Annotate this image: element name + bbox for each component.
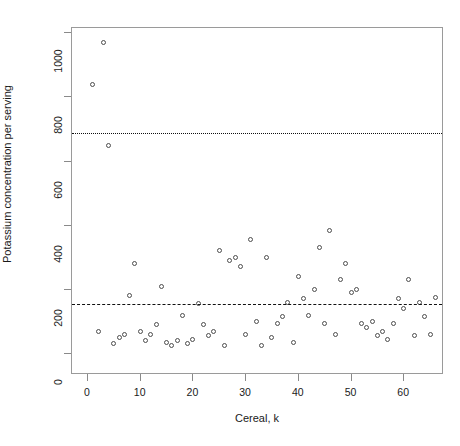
data-point <box>138 329 143 334</box>
data-point <box>175 338 180 343</box>
data-point <box>143 338 148 343</box>
data-point <box>206 333 211 338</box>
data-point <box>412 333 417 338</box>
data-point <box>343 261 348 266</box>
x-axis-title: Cereal, k <box>71 412 443 424</box>
data-point <box>428 332 433 337</box>
data-point <box>396 296 401 301</box>
data-point <box>275 321 280 326</box>
x-axis-tick-label: 50 <box>331 386 371 398</box>
data-point <box>291 340 296 345</box>
data-point <box>164 340 169 345</box>
data-point <box>159 284 164 289</box>
data-point <box>280 314 285 319</box>
data-point <box>364 325 369 330</box>
data-point <box>349 290 354 295</box>
y-axis-tick-label: 1000 <box>50 32 66 90</box>
x-axis-tick <box>351 374 352 381</box>
data-point <box>127 293 132 298</box>
data-point <box>122 332 127 337</box>
x-axis-tick-label: 10 <box>120 386 160 398</box>
data-point <box>233 255 238 260</box>
data-point <box>296 274 301 279</box>
data-point <box>101 40 106 45</box>
data-point <box>406 277 411 282</box>
data-point <box>254 319 259 324</box>
data-point <box>312 287 317 292</box>
data-point <box>354 287 359 292</box>
data-point <box>201 322 206 327</box>
data-point <box>169 343 174 348</box>
data-point <box>375 333 380 338</box>
data-point <box>180 313 185 318</box>
y-axis-tick-label: 0 <box>50 353 66 411</box>
y-axis-tick-label: 800 <box>50 96 66 154</box>
x-axis-tick <box>403 374 404 381</box>
data-point <box>370 319 375 324</box>
data-point <box>148 332 153 337</box>
data-point <box>322 321 327 326</box>
data-point <box>327 228 332 233</box>
data-point <box>185 341 190 346</box>
x-axis-tick <box>298 374 299 381</box>
data-point <box>385 337 390 342</box>
data-point <box>269 335 274 340</box>
plot-area <box>71 27 443 374</box>
lower-dashed-line <box>72 304 442 305</box>
data-point <box>132 261 137 266</box>
x-axis-tick-label: 0 <box>67 386 107 398</box>
data-point <box>211 329 216 334</box>
data-point <box>227 258 232 263</box>
data-point <box>264 255 269 260</box>
y-axis-title: Potassium concentration per serving <box>1 85 13 263</box>
data-point <box>333 332 338 337</box>
data-point <box>238 264 243 269</box>
x-axis-tick <box>245 374 246 381</box>
data-point <box>359 321 364 326</box>
x-axis-tick-label: 60 <box>383 386 423 398</box>
data-point <box>259 343 264 348</box>
data-point <box>96 329 101 334</box>
data-point <box>391 321 396 326</box>
data-point <box>317 245 322 250</box>
data-point <box>401 306 406 311</box>
data-point <box>243 332 248 337</box>
chart-container: Potassium concentration per serving Cere… <box>0 0 460 446</box>
data-point <box>222 343 227 348</box>
data-point <box>422 314 427 319</box>
data-point <box>154 322 159 327</box>
x-axis-tick-label: 30 <box>225 386 265 398</box>
data-point <box>338 277 343 282</box>
upper-dotted-line <box>72 133 442 134</box>
x-axis-tick-label: 20 <box>172 386 212 398</box>
y-axis-tick-label: 200 <box>50 289 66 347</box>
x-axis-tick <box>140 374 141 381</box>
x-axis-tick-label: 40 <box>278 386 318 398</box>
y-axis-tick-label: 600 <box>50 161 66 219</box>
x-axis-tick <box>192 374 193 381</box>
data-point <box>90 82 95 87</box>
data-point <box>306 313 311 318</box>
data-point <box>190 337 195 342</box>
data-point <box>106 143 111 148</box>
data-point <box>217 248 222 253</box>
y-axis-tick-label: 400 <box>50 225 66 283</box>
data-point <box>248 237 253 242</box>
y-axis-title-wrap: Potassium concentration per serving <box>0 0 14 347</box>
data-point <box>111 341 116 346</box>
x-axis-tick <box>87 374 88 381</box>
data-point <box>380 329 385 334</box>
data-point <box>117 335 122 340</box>
data-point <box>433 295 438 300</box>
data-point <box>301 296 306 301</box>
